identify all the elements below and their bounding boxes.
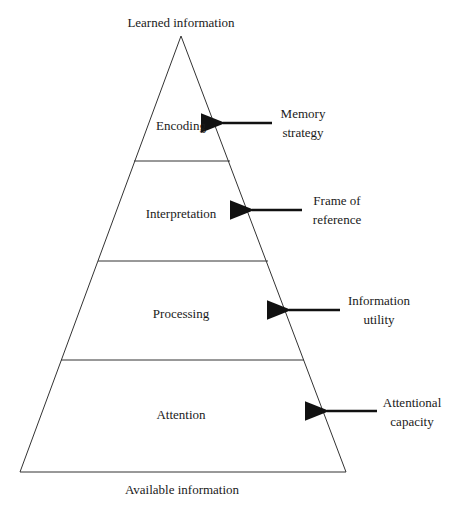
annotation-line-1: Frame of xyxy=(313,191,361,210)
annotation-memory-strategy: Memory strategy xyxy=(281,104,326,142)
annotation-line-2: strategy xyxy=(281,123,326,142)
annotation-line-1: Attentional xyxy=(383,393,442,412)
annotation-line-1: Memory xyxy=(281,104,326,123)
annotation-frame-of-reference: Frame of reference xyxy=(313,191,361,229)
annotation-line-1: Information xyxy=(348,291,410,310)
annotation-line-2: capacity xyxy=(383,412,442,431)
top-label: Learned information xyxy=(127,14,234,31)
level-label-encoding: Encoding xyxy=(156,117,206,134)
annotation-line-2: utility xyxy=(348,310,410,329)
level-label-processing: Processing xyxy=(153,305,209,322)
annotation-information-utility: Information utility xyxy=(348,291,410,329)
bottom-label: Available information xyxy=(125,481,239,498)
level-label-attention: Attention xyxy=(156,406,205,423)
annotation-attentional-capacity: Attentional capacity xyxy=(383,393,442,431)
level-label-interpretation: Interpretation xyxy=(146,205,217,222)
annotation-line-2: reference xyxy=(313,210,361,229)
